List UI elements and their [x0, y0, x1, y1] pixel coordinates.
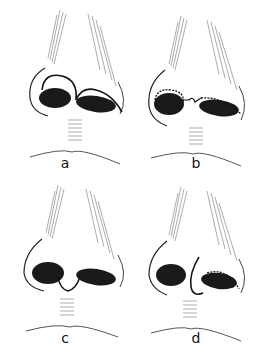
figure-caption — [0, 347, 261, 354]
panel-label-a: a — [0, 155, 130, 171]
panel-label-d: d — [131, 330, 261, 346]
nose-illustration-c — [0, 177, 130, 347]
panel-a: a — [0, 0, 130, 170]
panel-d: d — [131, 177, 261, 347]
nose-illustration-d — [131, 177, 261, 347]
panel-b: b — [131, 0, 261, 170]
panel-c: c — [0, 177, 130, 347]
panel-label-c: c — [0, 330, 130, 346]
nose-illustration-b — [131, 0, 261, 170]
panel-label-b: b — [131, 155, 261, 171]
nose-illustration-a — [0, 0, 130, 170]
